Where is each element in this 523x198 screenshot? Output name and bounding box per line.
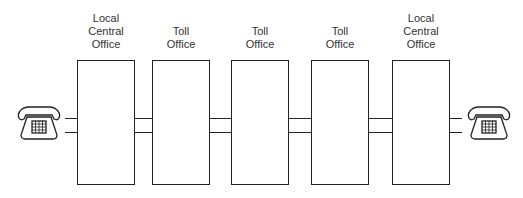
telephone-icon: [468, 107, 509, 139]
label-line: Toll: [220, 25, 300, 38]
office-box-toll-2: [232, 61, 289, 185]
office-box-local-right: [393, 61, 450, 185]
connection-3-4: [289, 119, 312, 133]
connection-2-3: [210, 119, 232, 133]
office-box-local-left: [78, 61, 135, 185]
connection-phone-left: [65, 119, 78, 133]
label-line: Office: [381, 38, 461, 51]
label-line: Office: [220, 38, 300, 51]
label-line: Office: [300, 38, 380, 51]
office-label-local-right: Local Central Office: [381, 12, 461, 51]
label-line: Central: [66, 25, 146, 38]
label-line: Toll: [141, 25, 221, 38]
office-label-toll-2: Toll Office: [220, 25, 300, 51]
label-line: Local: [66, 12, 146, 25]
label-line: Office: [141, 38, 221, 51]
connection-phone-right: [450, 119, 463, 133]
label-line: Office: [66, 38, 146, 51]
office-label-toll-3: Toll Office: [300, 25, 380, 51]
connection-1-2: [135, 119, 153, 133]
connection-4-5: [369, 119, 393, 133]
label-line: Toll: [300, 25, 380, 38]
office-label-local-left: Local Central Office: [66, 12, 146, 51]
telephone-icon: [18, 107, 59, 139]
label-line: Local: [381, 12, 461, 25]
office-box-toll-1: [153, 61, 210, 185]
label-line: Central: [381, 25, 461, 38]
office-label-toll-1: Toll Office: [141, 25, 221, 51]
office-box-toll-3: [312, 61, 369, 185]
